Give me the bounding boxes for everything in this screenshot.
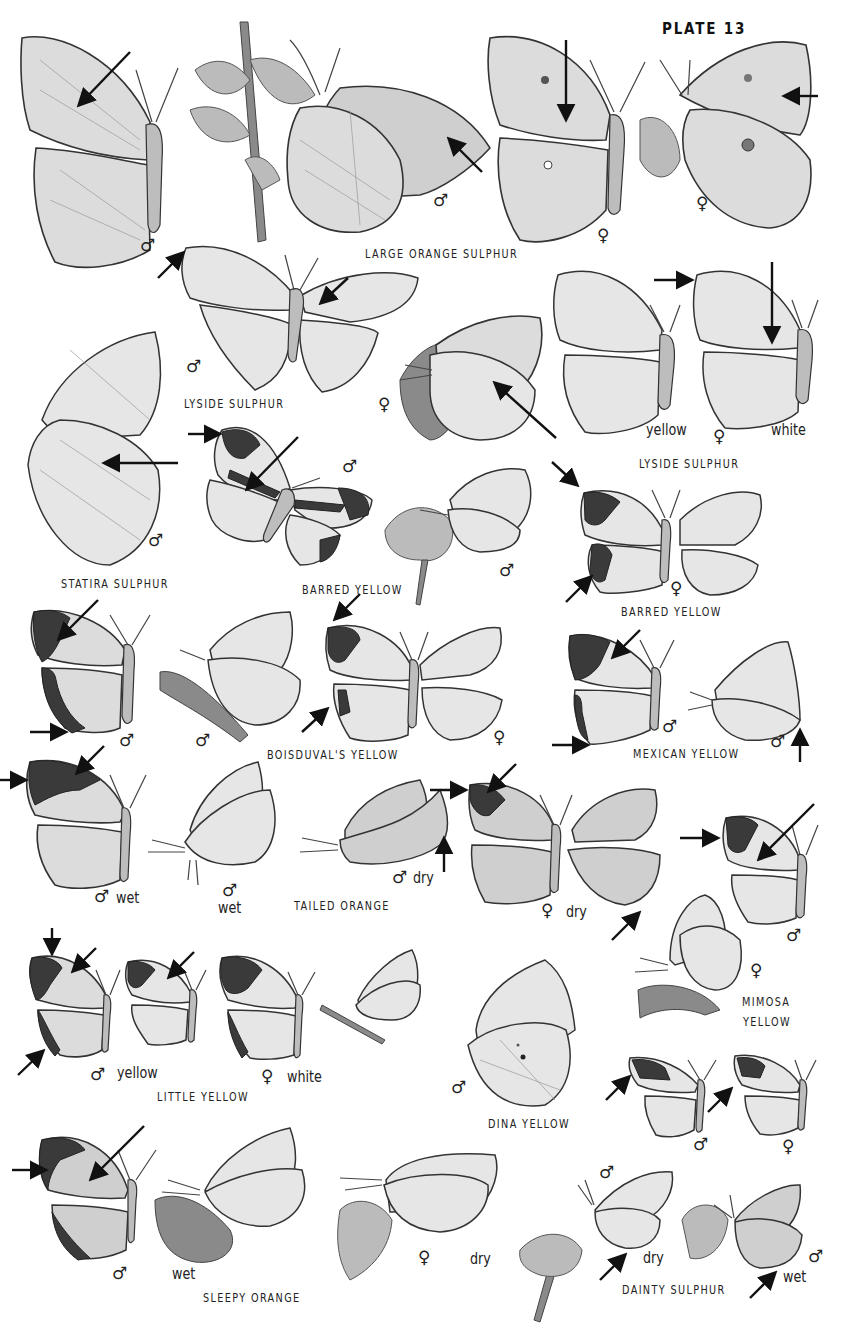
label-mimosa-yellow-line1: MIMOSA xyxy=(742,994,790,1009)
large-orange-sulphur-male-upperside xyxy=(21,37,178,268)
little-yellow-underside-on-twig xyxy=(320,950,420,1044)
plate-title: PLATE 13 xyxy=(662,20,746,38)
male-symbol: ♂ xyxy=(599,1164,614,1181)
male-symbol: ♂ xyxy=(693,1136,708,1153)
tailed-orange-male-wet-upperside xyxy=(0,746,146,888)
male-symbol: ♂ xyxy=(94,888,109,905)
female-symbol: ♀ xyxy=(597,227,609,244)
female-symbol: ♀ xyxy=(261,1068,273,1085)
dainty-sulphur-female-upperside-right xyxy=(708,1055,816,1135)
note-dainty-wet: wet xyxy=(783,1268,806,1286)
label-dina-yellow: DINA YELLOW xyxy=(488,1116,570,1131)
label-barred-yellow-female: BARRED YELLOW xyxy=(621,604,722,619)
little-yellow-male-yellow-upperside xyxy=(18,928,120,1075)
note-tailed-wet-1: wet xyxy=(116,889,139,907)
note-little-white: white xyxy=(287,1068,322,1086)
dina-yellow-male-underside xyxy=(468,960,575,1106)
male-symbol: ♂ xyxy=(222,882,237,899)
label-tailed-orange: TAILED ORANGE xyxy=(294,898,390,913)
male-symbol: ♂ xyxy=(186,358,201,375)
female-symbol: ♀ xyxy=(696,195,708,212)
female-symbol: ♀ xyxy=(418,1249,430,1266)
female-symbol: ♀ xyxy=(493,729,505,746)
lyside-sulphur-female-underside-on-leaf xyxy=(400,316,556,440)
label-barred-yellow-male: BARRED YELLOW xyxy=(302,582,403,597)
male-symbol: ♂ xyxy=(195,732,210,749)
note-tailed-wet-2: wet xyxy=(218,899,241,917)
dainty-sulphur-male-dry-on-flower xyxy=(520,1172,673,1322)
little-yellow-female-white-upperside xyxy=(220,956,315,1059)
male-symbol: ♂ xyxy=(433,192,448,209)
note-lyside-white: white xyxy=(771,421,806,439)
label-large-orange-sulphur: LARGE ORANGE SULPHUR xyxy=(365,246,518,261)
sleepy-orange-wet-underside-on-flower xyxy=(155,1128,305,1262)
sleepy-orange-male-upperside xyxy=(12,1126,156,1260)
butterfly-illustrations xyxy=(0,0,853,1342)
male-symbol: ♂ xyxy=(119,732,134,749)
label-dainty-sulphur: DAINTY SULPHUR xyxy=(622,1282,726,1297)
note-sleepy-dry: dry xyxy=(470,1250,491,1268)
note-lyside-yellow: yellow xyxy=(646,421,687,439)
male-symbol: ♂ xyxy=(786,927,801,944)
label-lyside-sulphur-male: LYSIDE SULPHUR xyxy=(184,396,284,411)
note-tailed-dry-2: dry xyxy=(566,903,587,921)
note-sleepy-wet: wet xyxy=(172,1265,195,1283)
male-symbol: ♂ xyxy=(662,718,677,735)
note-dainty-dry: dry xyxy=(643,1249,664,1267)
male-symbol: ♂ xyxy=(808,1248,823,1265)
large-orange-sulphur-female-underside xyxy=(640,42,818,228)
male-symbol: ♂ xyxy=(499,562,514,579)
female-symbol: ♀ xyxy=(713,428,725,445)
male-symbol: ♂ xyxy=(451,1079,466,1096)
female-symbol: ♀ xyxy=(750,962,762,979)
boisduvals-yellow-female-upperside xyxy=(302,594,502,741)
male-symbol: ♂ xyxy=(112,1265,127,1282)
female-symbol: ♀ xyxy=(782,1138,794,1155)
note-little-yellow: yellow xyxy=(117,1064,158,1082)
boisduvals-yellow-male-underside-on-leaf xyxy=(160,612,300,742)
male-symbol: ♂ xyxy=(770,733,785,750)
label-mimosa-yellow-line2: YELLOW xyxy=(743,1014,791,1029)
tailed-orange-male-dry-underside xyxy=(300,780,448,872)
female-symbol: ♀ xyxy=(541,902,553,919)
male-symbol: ♂ xyxy=(392,869,407,886)
lyside-sulphur-female-white-form xyxy=(654,262,818,429)
dainty-sulphur-male-upperside-right xyxy=(606,1058,716,1137)
field-guide-plate: PLATE 13 LARGE ORANGE SULPHUR LYSIDE SUL… xyxy=(0,0,853,1342)
male-symbol: ♂ xyxy=(140,237,155,254)
lyside-sulphur-female-yellow-form xyxy=(554,271,680,433)
label-sleepy-orange: SLEEPY ORANGE xyxy=(203,1290,301,1305)
barred-yellow-male-underside-on-flower xyxy=(385,469,531,605)
label-little-yellow: LITTLE YELLOW xyxy=(157,1089,249,1104)
note-tailed-dry-1: dry xyxy=(413,869,434,887)
label-statira-sulphur: STATIRA SULPHUR xyxy=(61,576,169,591)
little-yellow-male-yellow-upperside-small xyxy=(126,952,206,1045)
male-symbol: ♂ xyxy=(148,532,163,549)
male-symbol: ♂ xyxy=(90,1066,105,1083)
tailed-orange-male-wet-underside xyxy=(148,762,275,885)
label-lyside-sulphur-female: LYSIDE SULPHUR xyxy=(639,456,739,471)
large-orange-sulphur-female-upperside xyxy=(488,37,645,242)
female-symbol: ♀ xyxy=(670,580,682,597)
boisduvals-yellow-male-upperside xyxy=(30,600,150,733)
mimosa-yellow-female-underside-on-leaf xyxy=(635,895,741,1018)
barred-yellow-female-upperside xyxy=(552,462,761,602)
barred-yellow-male-upperside xyxy=(188,427,372,565)
label-mexican-yellow: MEXICAN YELLOW xyxy=(633,746,739,761)
mexican-yellow-male-upperside xyxy=(552,630,674,745)
label-boisduvals-yellow: BOISDUVAL'S YELLOW xyxy=(267,747,399,762)
male-symbol: ♂ xyxy=(342,458,357,475)
female-symbol: ♀ xyxy=(378,396,390,413)
